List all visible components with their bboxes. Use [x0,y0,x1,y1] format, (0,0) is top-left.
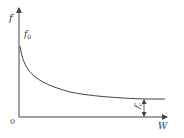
decay-curve [20,46,165,99]
start-value-label: f0 [23,29,31,40]
x-axis-label: W [158,121,168,131]
y-axis-label: f [8,12,15,23]
svg-text:fc: fc [132,101,143,111]
asymptote-label: fc [132,101,143,111]
origin-label: 0 [10,117,15,126]
decay-curve-diagram: f f0 0 W fc [0,0,184,138]
